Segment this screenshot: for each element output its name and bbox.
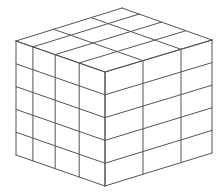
top-face-line-a — [79, 31, 186, 63]
left-face-horizontal-line — [16, 64, 105, 95]
top-face-line-b — [91, 18, 181, 50]
top-face-line-b — [16, 41, 105, 72]
left-face-horizontal-line — [16, 132, 105, 163]
left-face-horizontal-line — [16, 155, 105, 186]
right-face-grid — [105, 40, 212, 186]
left-face-grid — [16, 41, 105, 186]
wireframe-cube — [0, 0, 224, 196]
top-face-grid — [16, 8, 212, 72]
left-face-horizontal-line — [16, 87, 105, 118]
top-face-line-a — [55, 22, 161, 55]
top-face-line-b — [54, 29, 143, 60]
top-face-line-b — [122, 8, 212, 40]
left-face-horizontal-line — [16, 109, 105, 140]
cube-diagram — [0, 0, 224, 196]
